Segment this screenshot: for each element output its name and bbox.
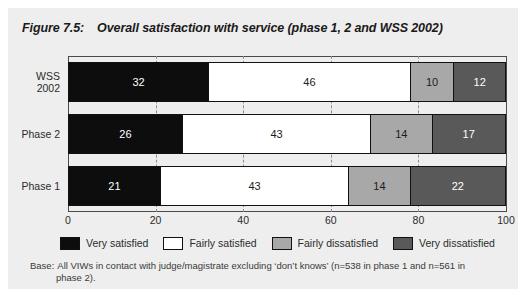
bar-segment-value: 46 xyxy=(303,76,315,88)
bar-segment-value: 14 xyxy=(373,180,385,192)
stacked-bar: 21431422 xyxy=(68,166,506,206)
legend-label: Very dissatisfied xyxy=(419,237,495,249)
figure-title: Figure 7.5:Overall satisfaction with ser… xyxy=(22,21,443,35)
legend-item[interactable]: Fairly dissatisfied xyxy=(272,237,379,250)
row-label: Phase 2 xyxy=(0,128,60,140)
bar-segment[interactable]: 43 xyxy=(182,114,370,154)
bar-segment[interactable]: 14 xyxy=(370,114,431,154)
bar-segment[interactable]: 12 xyxy=(453,62,506,102)
plot-frame-bottom xyxy=(68,211,506,212)
legend-swatch xyxy=(393,237,413,250)
bar-segment[interactable]: 17 xyxy=(432,114,506,154)
bar-segment[interactable]: 10 xyxy=(410,62,454,102)
bar-segment-value: 14 xyxy=(395,128,407,140)
x-tick-label: 40 xyxy=(237,214,249,226)
x-tick-label: 60 xyxy=(325,214,337,226)
bar-segment[interactable]: 21 xyxy=(68,166,160,206)
chart-legend: Very satisfiedFairly satisfiedFairly dis… xyxy=(60,235,506,251)
chart-row: WSS 200232461012 xyxy=(68,62,506,102)
footnote-line-1: All VIWs in contact with judge/magistrat… xyxy=(57,260,465,271)
legend-label: Fairly dissatisfied xyxy=(298,237,379,249)
bar-segment-value: 32 xyxy=(132,76,144,88)
x-tick-label: 80 xyxy=(413,214,425,226)
chart-plot-area: WSS 200232461012Phase 226431417Phase 121… xyxy=(60,56,506,212)
legend-swatch xyxy=(272,237,292,250)
plot-frame-top xyxy=(68,56,506,57)
stacked-bar: 26431417 xyxy=(68,114,506,154)
bar-segment[interactable]: 22 xyxy=(410,166,506,206)
legend-item[interactable]: Fairly satisfied xyxy=(163,237,256,250)
bar-segment[interactable]: 26 xyxy=(68,114,182,154)
row-label: WSS 2002 xyxy=(0,70,60,94)
legend-item[interactable]: Very satisfied xyxy=(60,237,148,250)
figure-panel: Figure 7.5:Overall satisfaction with ser… xyxy=(8,8,518,289)
bar-segment[interactable]: 43 xyxy=(160,166,348,206)
chart-row: Phase 226431417 xyxy=(68,114,506,154)
gridline-100 xyxy=(506,56,507,212)
bar-segment[interactable]: 32 xyxy=(68,62,208,102)
x-tick-label: 20 xyxy=(150,214,162,226)
legend-swatch xyxy=(163,237,183,250)
x-tick-label: 100 xyxy=(497,214,515,226)
bar-segment-value: 21 xyxy=(108,180,120,192)
row-label: Phase 1 xyxy=(0,180,60,192)
legend-swatch xyxy=(60,237,80,250)
footnote-label: Base: xyxy=(30,260,54,271)
legend-item[interactable]: Very dissatisfied xyxy=(393,237,495,250)
figure-title-text: Overall satisfaction with service (phase… xyxy=(97,21,443,35)
bar-segment-value: 26 xyxy=(119,128,131,140)
legend-label: Very satisfied xyxy=(86,237,148,249)
x-tick-label: 0 xyxy=(65,214,71,226)
footnote-line-2: phase 2). xyxy=(56,272,500,284)
stacked-bar: 32461012 xyxy=(68,62,506,102)
bar-segment-value: 43 xyxy=(249,180,261,192)
bar-segment-value: 22 xyxy=(452,180,464,192)
bar-segment-value: 12 xyxy=(474,76,486,88)
bar-segment[interactable]: 14 xyxy=(348,166,409,206)
legend-label: Fairly satisfied xyxy=(189,237,256,249)
x-axis-tick-labels: 020406080100 xyxy=(60,214,506,230)
bar-segment-value: 17 xyxy=(463,128,475,140)
bar-segment-value: 43 xyxy=(270,128,282,140)
bar-segment-value: 10 xyxy=(426,76,438,88)
figure-number: Figure 7.5: xyxy=(22,21,84,35)
figure-footnote: Base:All VIWs in contact with judge/magi… xyxy=(30,260,500,284)
chart-row: Phase 121431422 xyxy=(68,166,506,206)
bar-segment[interactable]: 46 xyxy=(208,62,409,102)
